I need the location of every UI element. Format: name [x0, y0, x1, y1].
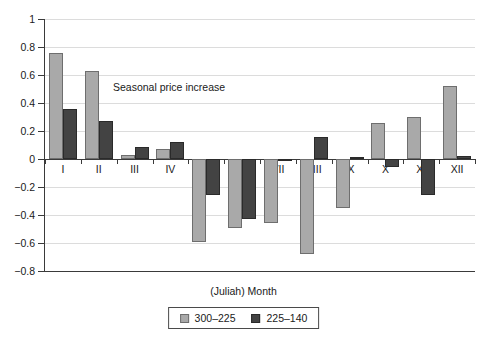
bar-IX-series-2 [350, 157, 364, 159]
y-axis-tick [38, 187, 44, 188]
x-axis-tick-label: XII [437, 163, 477, 175]
chart-annotation: Seasonal price increase [113, 81, 225, 93]
bar-III-series-1 [121, 155, 135, 159]
x-axis-tick-label: I [43, 163, 83, 175]
x-axis-title: (Juliah) Month [0, 285, 487, 297]
bar-XII-series-1 [443, 86, 457, 160]
legend-label-300-225: 300–225 [195, 312, 236, 324]
y-axis-tick [38, 271, 44, 272]
legend-label-225-140: 225–140 [267, 312, 308, 324]
bar-VIII-series-2 [314, 137, 328, 159]
y-axis-tick-label: −0.6 [0, 237, 35, 249]
bar-VI-series-1 [228, 159, 242, 228]
x-axis-tick [475, 159, 476, 164]
bar-II-series-1 [85, 71, 99, 159]
bar-II-series-2 [99, 121, 113, 159]
y-axis-tick-label: 0.8 [0, 41, 35, 53]
bar-IV-series-1 [156, 149, 170, 160]
bar-I-series-2 [63, 109, 77, 159]
bar-XII-series-2 [457, 156, 471, 160]
chart-legend: 300–225 225–140 [168, 307, 320, 329]
legend-item-300-225[interactable]: 300–225 [180, 312, 236, 324]
bar-chart: 10.80.60.40.20−0.2−0.4−0.6−0.8 IIIIIIIVV… [0, 0, 487, 343]
y-axis-tick-label: 0.6 [0, 69, 35, 81]
bar-VI-series-2 [242, 159, 256, 219]
y-axis-tick-label: 0.4 [0, 97, 35, 109]
bar-X-series-2 [385, 159, 399, 167]
x-axis-tick-label: II [79, 163, 119, 175]
y-axis-tick [38, 47, 44, 48]
bar-VII-series-1 [264, 159, 278, 223]
bar-V-series-2 [206, 159, 220, 195]
y-axis-tick [38, 159, 44, 160]
y-axis-tick-label: 0 [0, 153, 35, 165]
bar-VII-series-2 [278, 159, 292, 161]
x-axis-tick-label: III [115, 163, 155, 175]
y-axis-tick [38, 243, 44, 244]
bar-IV-series-2 [170, 142, 184, 159]
y-axis-tick-label: −0.2 [0, 181, 35, 193]
bar-I-series-1 [49, 53, 63, 159]
bar-XI-series-1 [407, 117, 421, 159]
x-axis-tick-label: IV [150, 163, 190, 175]
bar-VIII-series-1 [300, 159, 314, 254]
y-axis-tick-label: 1 [0, 13, 35, 25]
bar-IX-series-1 [336, 159, 350, 208]
legend-swatch-icon-225-140 [252, 314, 261, 323]
y-axis-tick [38, 19, 44, 20]
bar-V-series-1 [192, 159, 206, 242]
legend-swatch-icon-300-225 [180, 314, 189, 323]
y-axis-tick [38, 75, 44, 76]
y-axis-tick [38, 215, 44, 216]
bar-III-series-2 [135, 147, 149, 159]
y-axis-tick-label: 0.2 [0, 125, 35, 137]
legend-item-225-140[interactable]: 225–140 [252, 312, 308, 324]
y-axis-tick-label: −0.4 [0, 209, 35, 221]
bar-X-series-1 [371, 123, 385, 159]
y-axis-tick-label: −0.8 [0, 265, 35, 277]
bar-XI-series-2 [421, 159, 435, 195]
y-axis-tick [38, 131, 44, 132]
y-axis-tick [38, 103, 44, 104]
